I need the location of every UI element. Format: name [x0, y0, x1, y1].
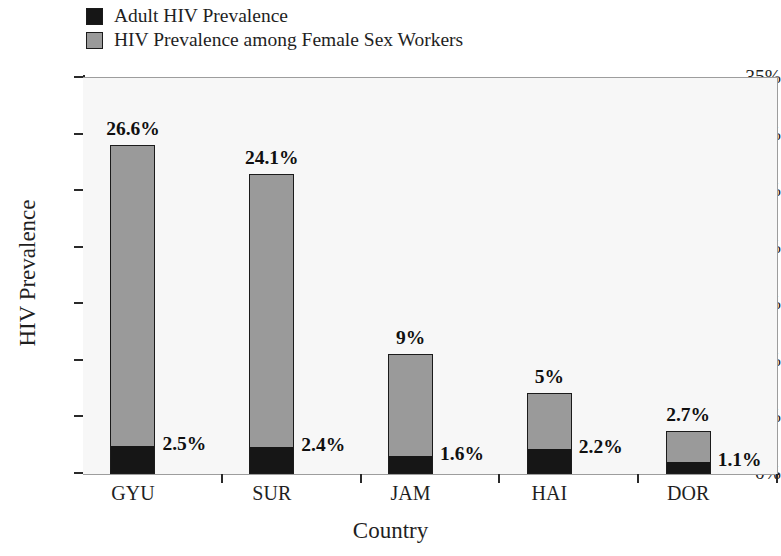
plot-area: 26.6%2.5%24.1%2.4%9%1.6%5%2.2%2.7%1.1%	[83, 77, 778, 475]
bar-group	[666, 431, 711, 474]
legend-swatch-fsw-icon	[86, 32, 103, 49]
x-axis-label-sur: SUR	[212, 482, 332, 504]
bar-segment-fsw	[249, 174, 294, 474]
bar-group	[249, 174, 294, 474]
hiv-prevalence-bar-chart: Adult HIV Prevalence HIV Prevalence amon…	[0, 0, 781, 556]
y-axis-title: HIV Prevalence	[15, 93, 41, 453]
bar-group	[110, 145, 155, 474]
x-axis-title: Country	[0, 518, 781, 544]
bar-group	[527, 393, 572, 474]
legend-item-adult: Adult HIV Prevalence	[86, 4, 646, 28]
legend-label-fsw: HIV Prevalence among Female Sex Workers	[114, 30, 463, 50]
bar-value-label-adult: 2.4%	[301, 435, 345, 455]
bar-segment-fsw	[110, 145, 155, 474]
legend-swatch-adult-icon	[86, 8, 103, 25]
chart-legend: Adult HIV Prevalence HIV Prevalence amon…	[86, 4, 646, 52]
bar-value-label-adult: 2.5%	[162, 434, 206, 454]
x-axis-label-gyu: GYU	[73, 482, 193, 504]
bar-value-label-fsw: 26.6%	[68, 119, 198, 139]
x-axis-label-hai: HAI	[489, 482, 609, 504]
bar-value-label-fsw: 5%	[484, 367, 614, 387]
bar-value-label-fsw: 24.1%	[207, 148, 337, 168]
x-axis-label-dor: DOR	[628, 482, 748, 504]
legend-label-adult: Adult HIV Prevalence	[114, 6, 288, 26]
bar-segment-adult	[110, 446, 155, 474]
bar-segment-adult	[666, 462, 711, 474]
x-axis-tick	[776, 474, 778, 483]
legend-item-fsw: HIV Prevalence among Female Sex Workers	[86, 28, 646, 52]
bar-value-label-adult: 1.6%	[440, 444, 484, 464]
bar-value-label-adult: 2.2%	[579, 437, 623, 457]
bar-segment-adult	[249, 447, 294, 474]
bar-value-label-fsw: 9%	[346, 328, 476, 348]
bar-segment-adult	[527, 449, 572, 474]
bar-value-label-fsw: 2.7%	[623, 405, 753, 425]
bar-segment-adult	[388, 456, 433, 474]
bar-group	[388, 354, 433, 474]
x-axis-label-jam: JAM	[351, 482, 471, 504]
bar-value-label-adult: 1.1%	[718, 450, 762, 470]
